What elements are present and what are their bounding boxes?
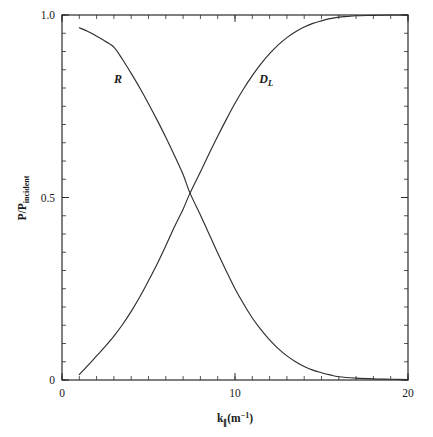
x-tick-label: 0 xyxy=(59,387,65,399)
y-axis-minor-ticks xyxy=(62,15,408,380)
curve-label-DL-base: D xyxy=(258,72,268,86)
y-axis-tick-labels: 00.51.0 xyxy=(41,9,56,386)
y-tick-label: 0 xyxy=(49,374,55,386)
y-axis-title: P/Pincident xyxy=(16,175,31,220)
x-axis-major-ticks xyxy=(62,15,408,380)
x-axis-title: k∥(m−1) xyxy=(217,411,253,427)
svg-text:P/Pincident: P/Pincident xyxy=(16,175,31,220)
x-axis-title-unit-close: ) xyxy=(249,412,253,425)
x-axis-tick-labels: 01020 xyxy=(59,387,414,399)
svg-text:k∥(m−1): k∥(m−1) xyxy=(217,411,253,427)
curve-label-DL: DL xyxy=(258,72,273,88)
x-axis-title-unit-open: (m xyxy=(227,412,241,425)
curve-label-R: R xyxy=(113,72,122,86)
plot-frame xyxy=(62,15,408,380)
data-curves xyxy=(79,15,408,380)
figure-container: 01020 00.51.0 R DL k∥(m−1) P/Pincident xyxy=(0,0,433,437)
y-axis-major-ticks xyxy=(62,15,408,380)
x-tick-label: 10 xyxy=(229,387,241,399)
y-tick-label: 1.0 xyxy=(41,9,56,21)
x-axis-minor-ticks xyxy=(62,15,408,380)
chart-plot: 01020 00.51.0 R DL k∥(m−1) P/Pincident xyxy=(0,0,433,437)
x-tick-label: 20 xyxy=(402,387,414,399)
y-axis-title-base: P/P xyxy=(16,203,28,220)
curve-label-DL-subscript: L xyxy=(267,78,273,88)
x-axis-title-unit-exponent: −1 xyxy=(241,411,250,420)
y-axis-title-subscript: incident xyxy=(22,175,31,203)
y-tick-label: 0.5 xyxy=(41,192,56,204)
series-line-R xyxy=(79,28,408,380)
